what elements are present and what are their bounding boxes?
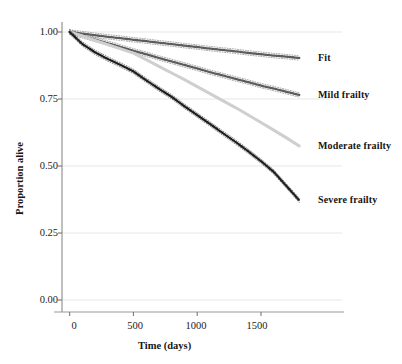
y-axis-title: Proportion alive (14, 142, 25, 215)
ytick-label-0-25: 0.25 (24, 227, 58, 238)
series-label-fit: Fit (318, 52, 331, 63)
xtick-label-500: 500 (115, 320, 155, 331)
confidence-band-mild-frailty-upper (70, 30, 300, 93)
series-line-severe-frailty (70, 32, 300, 200)
ytick-label-1-00: 1.00 (24, 26, 58, 37)
ytick-label-0-00: 0.00 (24, 294, 58, 305)
series-label-moderate-frailty: Moderate frailty (318, 140, 391, 151)
axes-lines-group (54, 22, 344, 312)
plot-canvas (0, 0, 402, 364)
xtick-label-0: 0 (54, 320, 94, 331)
tick-marks-group (58, 32, 261, 316)
xtick-label-1500: 1500 (237, 320, 277, 331)
xtick-label-1000: 1000 (176, 320, 216, 331)
x-axis-title: Time (days) (138, 340, 191, 351)
confidence-band-severe-frailty-lower (70, 34, 300, 202)
series-line-mild-frailty (70, 32, 300, 95)
gridlines-group (58, 32, 342, 300)
series-label-severe-frailty: Severe frailty (318, 194, 377, 205)
series-group (70, 30, 300, 203)
series-line-fit (70, 32, 300, 58)
ytick-label-0-50: 0.50 (24, 160, 58, 171)
survival-chart-figure: 1.00 0.75 0.50 0.25 0.00 0 500 1000 1500… (0, 0, 402, 364)
series-label-mild-frailty: Mild frailty (318, 89, 370, 100)
ytick-label-0-75: 0.75 (24, 93, 58, 104)
